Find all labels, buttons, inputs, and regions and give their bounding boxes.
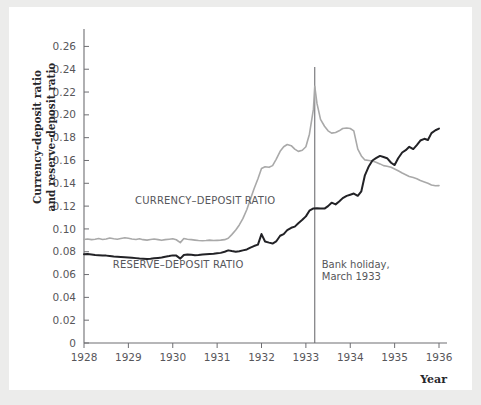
x-axis-title: Year — [419, 373, 447, 386]
series-label-currency-deposit: CURRENCY–DEPOSIT RATIO — [135, 195, 275, 206]
y-axis-title-line2: and reserve–deposit ratio — [45, 63, 57, 212]
series-line-currency-deposit — [84, 86, 439, 242]
bank-holiday-label-line1: Bank holiday, — [322, 259, 390, 270]
y-axis-title-line1: Currency–deposit ratio — [31, 70, 43, 204]
x-tick-label: 1929 — [115, 351, 142, 363]
x-tick-label: 1934 — [337, 351, 364, 363]
x-tick-label: 1936 — [426, 351, 453, 363]
y-tick-label: 0.04 — [53, 291, 77, 303]
figure-root: 00.020.040.060.080.100.120.140.160.180.2… — [0, 0, 481, 405]
x-tick-label: 1930 — [159, 351, 186, 363]
x-tick-label: 1931 — [204, 351, 231, 363]
y-tick-label: 0.08 — [53, 245, 76, 257]
y-tick-label: 0 — [69, 337, 76, 349]
bank-holiday-label-line2: March 1933 — [322, 271, 381, 282]
y-tick-label: 0.02 — [53, 314, 76, 326]
x-tick-label: 1932 — [248, 351, 275, 363]
chart-svg: 00.020.040.060.080.100.120.140.160.180.2… — [9, 7, 472, 390]
y-tick-label: 0.06 — [53, 268, 77, 280]
x-tick-label: 1935 — [381, 351, 408, 363]
y-tick-label: 0.10 — [53, 223, 76, 235]
x-tick-label: 1928 — [71, 351, 98, 363]
series-label-reserve-deposit: RESERVE–DEPOSIT RATIO — [113, 259, 244, 270]
figure-panel: 00.020.040.060.080.100.120.140.160.180.2… — [9, 7, 472, 390]
x-tick-label: 1933 — [293, 351, 320, 363]
y-tick-label: 0.26 — [53, 40, 77, 52]
